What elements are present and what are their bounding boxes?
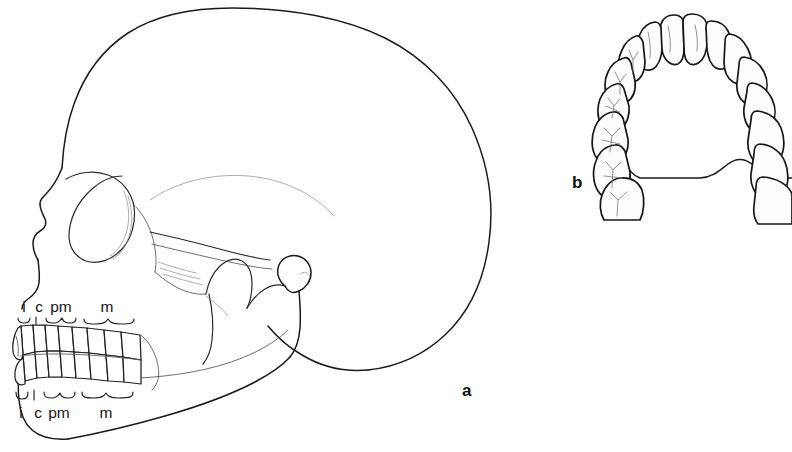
arch-tooth-i1-left [660, 15, 684, 65]
arch-tooth-i1-right [683, 14, 708, 65]
tooth-upper-pm1 [58, 326, 74, 352]
tooth-lower-m1 [89, 353, 108, 381]
panel-b-label: b [572, 173, 582, 192]
tooth-upper-m3 [121, 332, 141, 360]
tooth-lower-m2 [106, 355, 124, 382]
lower-label-premolar: pm [48, 404, 70, 421]
tooth-lower-m3 [123, 357, 141, 384]
upper-label-premolar: pm [50, 298, 72, 315]
figure-root: i c pm m i c pm m [0, 0, 792, 452]
tooth-upper-m1 [87, 328, 106, 355]
upper-label-molar: m [101, 298, 114, 315]
tooth-upper-m2 [104, 330, 123, 357]
panel-a-label: a [462, 381, 472, 400]
tooth-lower-pm1 [60, 351, 76, 378]
lower-label-molar: m [100, 404, 113, 421]
upper-label-canine: c [35, 298, 43, 315]
lower-label-canine: c [34, 404, 42, 421]
tooth-upper-pm2 [72, 327, 89, 353]
figure-background [0, 0, 792, 452]
lower-label-incisor: i [19, 404, 22, 421]
tooth-lower-pm2 [74, 352, 91, 379]
anatomical-figure: i c pm m i c pm m [0, 0, 792, 452]
upper-label-incisor: i [22, 298, 25, 315]
